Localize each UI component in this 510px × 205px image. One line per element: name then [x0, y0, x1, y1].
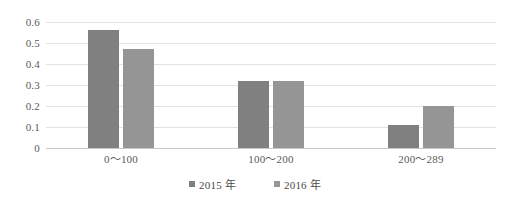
x-tick-label: 200～289 [398, 150, 443, 166]
legend-item[interactable]: 2015 年 [189, 176, 236, 192]
chart-legend: 2015 年2016 年 [0, 176, 510, 192]
y-tick-label: 0.1 [26, 121, 40, 133]
y-tick-label: 0 [34, 142, 40, 154]
x-tick-label: 100～200 [248, 150, 293, 166]
y-tick-label: 0.3 [26, 79, 40, 91]
legend-label: 2015 年 [199, 176, 236, 192]
y-axis: 00.10.20.30.40.50.6 [0, 22, 40, 148]
bar [88, 30, 119, 148]
legend-swatch-icon [189, 181, 195, 187]
bar [238, 81, 269, 148]
y-tick-label: 0.6 [26, 16, 40, 28]
bar [273, 81, 304, 148]
bar [123, 49, 154, 148]
legend-swatch-icon [274, 181, 280, 187]
bar-chart: 00.10.20.30.40.50.6 0～100100～200200～289 … [0, 0, 510, 205]
bars-layer [46, 22, 496, 148]
x-axis: 0～100100～200200～289 [46, 150, 496, 168]
x-tick-label: 0～100 [104, 150, 138, 166]
y-tick-label: 0.2 [26, 100, 40, 112]
legend-item[interactable]: 2016 年 [274, 176, 321, 192]
y-tick-label: 0.4 [26, 58, 40, 70]
legend-label: 2016 年 [284, 176, 321, 192]
y-tick-label: 0.5 [26, 37, 40, 49]
axis-baseline [46, 148, 496, 149]
bar [388, 125, 419, 148]
bar [423, 106, 454, 148]
